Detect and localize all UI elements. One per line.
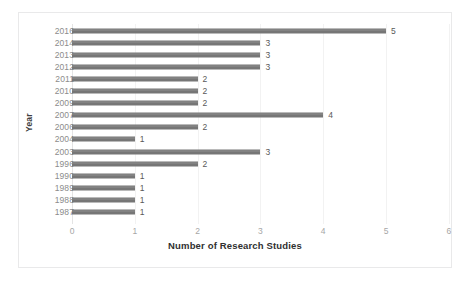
bar [72,41,260,46]
bar-value-label: 1 [140,195,145,205]
bar [72,149,260,154]
bar-value-label: 1 [140,207,145,217]
bar [72,197,135,202]
bar-value-label: 4 [328,110,333,120]
x-tick-label: 0 [70,226,75,236]
x-gridline [449,24,450,224]
x-tick-label: 2 [195,226,200,236]
bar-value-label: 3 [265,147,270,157]
bar [72,65,260,70]
bar [72,77,198,82]
bar [72,101,198,106]
bar-value-label: 1 [140,171,145,181]
x-tick-label: 6 [446,226,451,236]
bar [72,185,135,190]
bar [72,125,198,130]
x-gridline [260,24,261,224]
bar [72,29,386,34]
bar-value-label: 1 [140,134,145,144]
bar [72,89,198,94]
x-tick-label: 5 [384,226,389,236]
bar [72,53,260,58]
bar [72,161,198,166]
bar [72,137,135,142]
x-gridline [386,24,387,224]
x-tick-label: 1 [132,226,137,236]
bar-value-label: 3 [265,38,270,48]
x-gridline [323,24,324,224]
bar-value-label: 2 [203,98,208,108]
bar [72,209,135,214]
bar-value-label: 3 [265,50,270,60]
bar-value-label: 2 [203,159,208,169]
bar-value-label: 2 [203,86,208,96]
bar-value-label: 1 [140,183,145,193]
bar-value-label: 5 [391,26,396,36]
bar-value-label: 3 [265,62,270,72]
x-axis-title: Number of Research Studies [0,240,470,251]
bar [72,173,135,178]
bar [72,113,323,118]
bar-value-label: 2 [203,74,208,84]
x-tick-label: 3 [258,226,263,236]
x-tick-label: 4 [321,226,326,236]
bar-value-label: 2 [203,122,208,132]
